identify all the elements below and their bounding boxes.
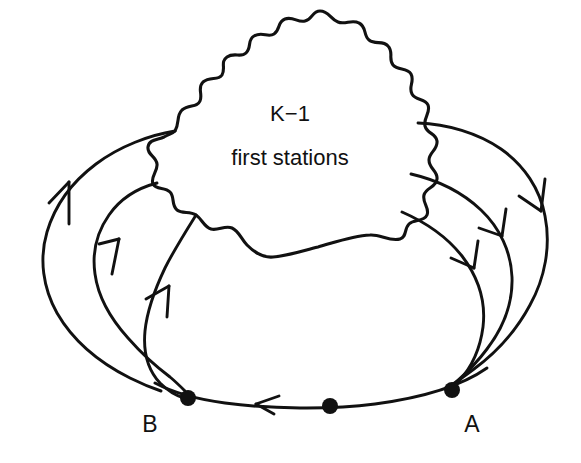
blob-label-line-2: first stations <box>231 145 348 170</box>
node-dot-B <box>180 390 196 406</box>
queueing-network-diagram: K−1 first stations B A <box>0 0 581 463</box>
bottom-feedback-arc <box>155 368 487 408</box>
right-inner-arc <box>402 212 484 390</box>
arrowhead-left-middle-icon <box>99 239 119 274</box>
node-dot-A <box>444 382 460 398</box>
node-label-A: A <box>464 411 480 437</box>
arrowhead-right-inner-icon <box>451 241 478 268</box>
arrowhead-bottom-left-icon <box>256 396 279 414</box>
left-inner-arc <box>145 215 196 398</box>
blob-label-line-1: K−1 <box>270 101 310 126</box>
node-label-B: B <box>142 411 157 437</box>
node-dot-mid <box>322 398 338 414</box>
right-outer-arc <box>418 123 547 384</box>
left-middle-arc <box>94 183 185 391</box>
figure-root: K−1 first stations B A <box>0 0 581 463</box>
